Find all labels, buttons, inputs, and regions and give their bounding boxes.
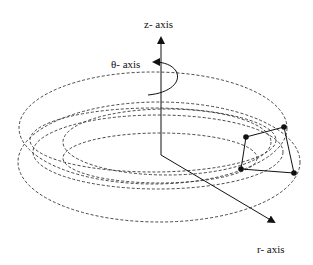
- theta-axis-label: θ- axis: [111, 58, 140, 70]
- z-axis-label: z- axis: [144, 18, 173, 30]
- dashed-orbits: [18, 72, 300, 222]
- quadrilateral-element: [238, 124, 297, 176]
- middle-upper-orbit: [30, 108, 276, 172]
- element-node: [291, 170, 297, 176]
- inner-lower-orbit: [63, 133, 257, 183]
- inner-upper-orbit: [63, 109, 271, 175]
- r-axis-label: r- axis: [257, 243, 285, 255]
- middle-lower-orbit: [33, 115, 283, 189]
- element-node: [238, 166, 244, 172]
- element-node: [281, 124, 287, 130]
- cylindrical-coordinate-diagram: z- axis θ- axis r- axis: [0, 0, 313, 265]
- element-node: [243, 134, 249, 140]
- theta-rotation-arrow: [148, 62, 178, 95]
- outer-upper-orbit: [19, 72, 287, 184]
- outer-lower-orbit: [18, 102, 300, 222]
